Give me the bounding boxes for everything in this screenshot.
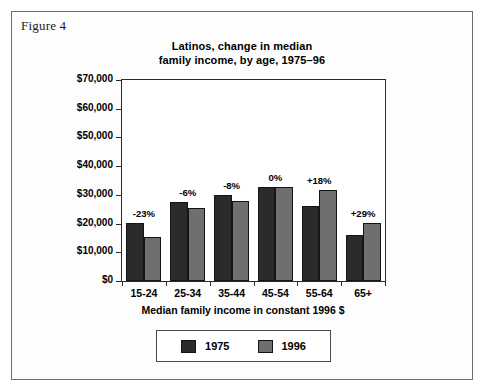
bar-group [346, 80, 381, 281]
x-tick-label-35-44: 35-44 [210, 287, 254, 299]
bar-group [126, 80, 161, 281]
x-tick-label-65+: 65+ [341, 287, 385, 299]
bar-1996-65+ [363, 223, 381, 281]
chart-plot-region: $0$10,000$20,000$30,000$40,000$50,000$60… [12, 12, 474, 381]
x-tick-label-15-24: 15-24 [122, 287, 166, 299]
percent-change-label-65+: +29% [338, 208, 389, 219]
bar-1975-25-34 [170, 202, 188, 281]
y-tick-label: $10,000 [77, 245, 113, 256]
bar-1975-65+ [346, 235, 364, 281]
bar-1975-35-44 [214, 195, 232, 281]
plot-area: -23%-6%-8%0%+18%+29% [121, 79, 386, 282]
x-tick-mark [385, 282, 386, 286]
y-tick-label: $0 [102, 274, 113, 285]
percent-change-label-55-64: +18% [294, 175, 345, 186]
percent-change-label-15-24: -23% [118, 208, 169, 219]
bar-1996-55-64 [319, 190, 337, 281]
x-axis-title: Median family income in constant 1996 $ [12, 304, 474, 316]
y-tick-label: $70,000 [77, 73, 113, 84]
bar-1996-25-34 [188, 208, 206, 281]
figure-frame: Figure 4 Latinos, change in median famil… [11, 11, 473, 380]
bar-1975-55-64 [302, 206, 320, 281]
x-tick-label-25-34: 25-34 [166, 287, 210, 299]
x-tick-mark [210, 282, 211, 286]
x-tick-mark [297, 282, 298, 286]
bar-1996-35-44 [232, 201, 250, 281]
legend-swatch-1975 [181, 340, 196, 353]
y-axis: $0$10,000$20,000$30,000$40,000$50,000$60… [12, 79, 121, 282]
chart-legend: 19751996 [156, 330, 331, 362]
x-tick-mark [254, 282, 255, 286]
legend-swatch-1996 [258, 340, 273, 353]
x-tick-mark [341, 282, 342, 286]
y-tick-label: $30,000 [77, 188, 113, 199]
legend-item-1996: 1996 [258, 340, 306, 353]
y-tick-label: $50,000 [77, 130, 113, 141]
x-tick-label-55-64: 55-64 [297, 287, 341, 299]
legend-label-1996: 1996 [282, 340, 306, 352]
x-tick-label-45-54: 45-54 [254, 287, 298, 299]
bars-layer: -23%-6%-8%0%+18%+29% [122, 80, 385, 281]
legend-item-1975: 1975 [181, 340, 229, 353]
x-tick-mark [166, 282, 167, 286]
x-axis: 15-2425-3435-4445-5455-6465+ [121, 282, 386, 304]
x-tick-mark [122, 282, 123, 286]
bar-1996-45-54 [275, 187, 293, 281]
bar-1975-45-54 [258, 187, 276, 281]
legend-label-1975: 1975 [205, 340, 229, 352]
bar-group [170, 80, 205, 281]
y-tick-label: $20,000 [77, 217, 113, 228]
bar-1996-15-24 [144, 237, 162, 282]
y-tick-label: $40,000 [77, 159, 113, 170]
y-tick-label: $60,000 [77, 102, 113, 113]
bar-1975-15-24 [126, 223, 144, 281]
